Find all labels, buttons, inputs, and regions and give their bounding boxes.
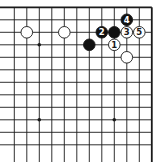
star-point [113, 118, 117, 122]
black-stone [84, 39, 96, 51]
black-stone-2: 2 [96, 27, 108, 39]
move-number: 2 [99, 27, 105, 37]
white-stone-3: 3 [121, 27, 133, 39]
move-number: 4 [124, 15, 130, 25]
white-stone-1: 1 [109, 39, 121, 51]
black-stone [109, 27, 121, 39]
move-number: 3 [124, 27, 130, 37]
white-stone [21, 27, 33, 39]
white-stone-5: 5 [134, 27, 146, 39]
white-stone [59, 27, 71, 39]
move-number: 1 [111, 40, 117, 50]
go-board: 21435 [0, 0, 157, 162]
move-number: 5 [136, 27, 142, 37]
star-point [38, 118, 42, 122]
black-stone-4: 4 [121, 14, 133, 26]
white-stone [121, 52, 133, 64]
star-point [38, 43, 42, 47]
